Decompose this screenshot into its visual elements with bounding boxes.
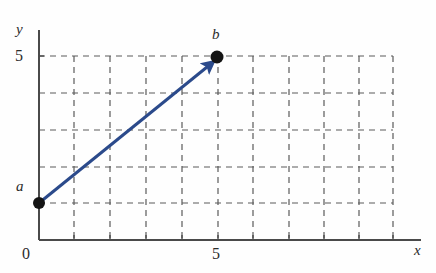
x-axis-tick-label-5: 5 — [212, 246, 220, 262]
vector-diagram-figure: y x 5 5 0 a b — [0, 0, 436, 273]
point-b-marker — [211, 51, 224, 64]
point-a-label: a — [16, 179, 24, 194]
x-axis-label: x — [414, 243, 421, 258]
y-axis-tick-label-5: 5 — [15, 48, 23, 64]
origin-label: 0 — [22, 246, 30, 262]
vector-arrow-a-to-b — [39, 63, 212, 203]
grid-vertical-lines — [74, 56, 393, 240]
point-a-marker — [33, 197, 45, 209]
grid-horizontal-lines — [39, 56, 393, 203]
point-b-label: b — [212, 27, 220, 42]
y-axis-label: y — [16, 22, 23, 37]
